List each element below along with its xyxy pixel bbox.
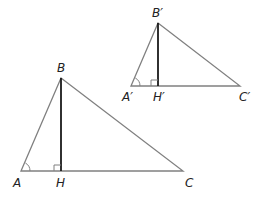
angle-mark-a-prime (135, 78, 140, 86)
triangle-a-prime-sides (131, 23, 240, 86)
triangle-a-prime-b-prime-c-prime: B′ A′ H′ C′ (121, 6, 250, 104)
label-c-prime: C′ (239, 90, 250, 104)
right-angle-mark-h-prime (151, 80, 158, 86)
triangle-abc: B A H C (12, 61, 194, 190)
diagram-svg: B A H C B′ A′ H′ C′ (0, 0, 267, 197)
label-a-prime: A′ (121, 90, 133, 104)
label-c: C (185, 176, 194, 190)
label-h: H (56, 176, 65, 190)
label-b-prime: B′ (152, 6, 163, 20)
label-h-prime: H′ (153, 90, 165, 104)
right-angle-mark-h (54, 165, 61, 171)
label-a: A (12, 176, 21, 190)
angle-mark-a (25, 163, 30, 171)
similar-triangles-diagram: B A H C B′ A′ H′ C′ (0, 0, 267, 197)
label-b: B (57, 61, 65, 75)
